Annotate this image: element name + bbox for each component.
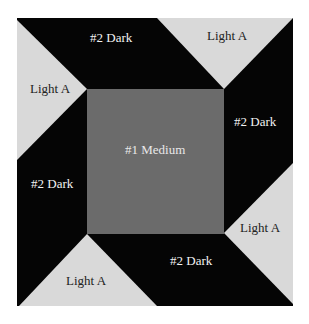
label-dark-left: #2 Dark [31, 177, 73, 190]
label-light-top: Light A [207, 29, 247, 42]
label-center-medium: #1 Medium [125, 143, 185, 156]
label-light-left: Light A [30, 82, 70, 95]
label-light-bottom: Light A [66, 274, 106, 287]
medium-center-square [87, 89, 224, 234]
label-light-right: Light A [240, 221, 280, 234]
label-dark-bottom: #2 Dark [170, 254, 212, 267]
label-dark-right: #2 Dark [234, 115, 276, 128]
quilt-block-diagram [0, 0, 309, 324]
label-dark-top: #2 Dark [90, 31, 132, 44]
